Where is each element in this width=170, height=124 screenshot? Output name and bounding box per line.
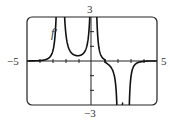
y-min-label: −3 [84, 108, 96, 119]
x-min-label: −5 [7, 56, 19, 67]
chart-canvas [0, 0, 170, 124]
curve-label: f′ [51, 27, 57, 39]
x-max-label: 5 [161, 56, 167, 67]
y-max-label: 3 [87, 4, 93, 15]
